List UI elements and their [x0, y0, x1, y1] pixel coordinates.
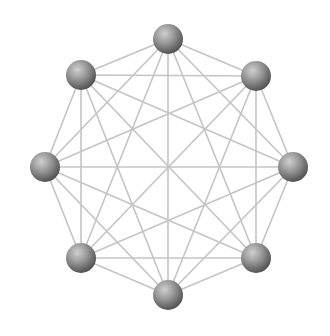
- node-n7: [66, 60, 96, 90]
- edge-n1-n7: [81, 75, 256, 76]
- node-n0: [153, 24, 183, 54]
- node-n2: [278, 152, 308, 182]
- node-n3: [241, 243, 271, 273]
- node-n5: [66, 243, 96, 273]
- node-n4: [153, 280, 183, 310]
- node-n6: [30, 152, 60, 182]
- complete-graph-diagram: [0, 0, 330, 336]
- node-n1: [241, 61, 271, 91]
